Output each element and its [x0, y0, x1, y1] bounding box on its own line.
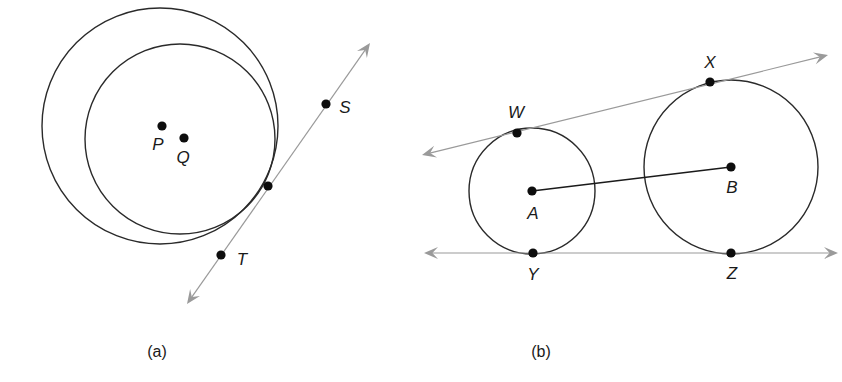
- point-a: [527, 186, 536, 195]
- point-tangency: [263, 181, 272, 190]
- point-label-x: X: [703, 53, 716, 72]
- point-z: [726, 248, 735, 257]
- caption-a: (a): [147, 343, 167, 360]
- arrowhead-icon: [357, 43, 370, 58]
- point-w: [512, 128, 521, 137]
- geometry-figure: PQST(a) WXABYZ(b): [0, 0, 842, 382]
- point-s: [321, 99, 330, 108]
- point-label-w: W: [508, 103, 526, 122]
- point-t: [216, 250, 225, 259]
- point-x: [705, 77, 714, 86]
- arrowhead-icon: [187, 289, 200, 304]
- point-y: [528, 248, 537, 257]
- panel-b-common-tangents: WXABYZ(b): [422, 53, 838, 360]
- point-p: [157, 121, 166, 130]
- point-label-z: Z: [726, 264, 738, 283]
- point-label-s: S: [339, 98, 351, 117]
- point-label-a: A: [526, 204, 538, 223]
- point-b: [726, 162, 735, 171]
- point-label-t: T: [237, 250, 249, 269]
- segment-AB: [532, 167, 731, 191]
- point-q: [179, 133, 188, 142]
- point-label-p: P: [152, 135, 164, 154]
- panel-a-concentric-tangent-circles: PQST(a): [42, 8, 370, 360]
- caption-b: (b): [531, 343, 551, 360]
- point-label-b: B: [726, 178, 737, 197]
- tangent-line-ST: [192, 50, 366, 298]
- tangent-line-WX: [430, 57, 820, 153]
- point-label-y: Y: [527, 265, 540, 284]
- point-label-q: Q: [176, 148, 189, 167]
